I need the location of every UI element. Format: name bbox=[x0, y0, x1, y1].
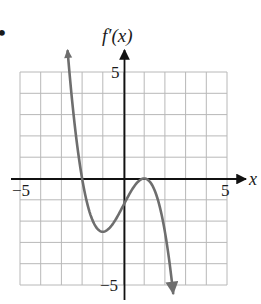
y-max-tick-label: 5 bbox=[111, 63, 120, 82]
y-axis-label: f′(x) bbox=[102, 25, 133, 47]
x-min-tick-label: −5 bbox=[12, 181, 30, 200]
x-max-tick-label: 5 bbox=[221, 181, 230, 200]
derivative-graph: • f′(x) x −5 5 5 −5 bbox=[0, 0, 261, 304]
x-axis-label: x bbox=[248, 169, 257, 189]
derivative-curve bbox=[68, 51, 174, 293]
y-min-tick-label: −5 bbox=[100, 276, 118, 295]
curve-arrow-up-icon bbox=[64, 49, 72, 58]
bullet-marker: • bbox=[0, 20, 6, 45]
